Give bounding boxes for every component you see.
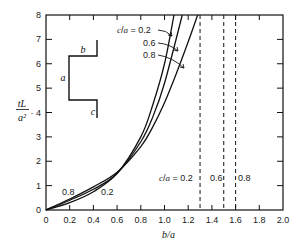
y-tick-label: 5: [36, 83, 41, 93]
y-axis-label-denominator: a²: [18, 112, 27, 123]
y-tick-label: 0: [36, 205, 41, 215]
inset-diagram: bac: [61, 40, 98, 118]
inset-label-b: b: [81, 44, 86, 55]
legend-item: 0.8: [143, 50, 156, 60]
x-tick-label: 1.4: [206, 215, 219, 225]
x-tick-label: 2.0: [277, 215, 290, 225]
x-axis-label: b/a: [162, 229, 175, 240]
low-label-0.2: 0.2: [101, 187, 114, 197]
x-tick-label: 0.4: [87, 215, 100, 225]
inset-label-a: a: [61, 72, 66, 83]
y-tick-label: 6: [36, 59, 41, 69]
y-tick-label: 8: [36, 10, 41, 20]
low-label-0.8: 0.8: [62, 187, 75, 197]
x-tick-label: 0.2: [63, 215, 76, 225]
legend-item: 0.6: [143, 38, 156, 48]
x-tick-label: 1.0: [158, 215, 171, 225]
y-tick-label: · 4: [30, 108, 41, 118]
x-tick-label: 0.8: [135, 215, 148, 225]
y-tick-label: 7: [36, 34, 41, 44]
x-tick-label: 0.6: [111, 215, 124, 225]
legend-title: c/a = 0.2: [117, 25, 151, 35]
x-tick-label: 1.8: [253, 215, 266, 225]
asymptote-title: c/a = 0.2: [159, 173, 193, 183]
x-tick-label: 0: [43, 215, 48, 225]
inset-label-c: c: [91, 106, 96, 117]
asymptote-label-0.8: 0.8: [238, 173, 251, 183]
y-tick-label: 3: [36, 132, 41, 142]
asymptote-label-0.6: 0.6: [210, 173, 223, 183]
y-axis-label-numerator: tL: [18, 98, 27, 109]
y-tick-label: 1: [36, 181, 41, 191]
chart: 00.20.40.60.81.01.21.41.61.82.001235678·…: [0, 0, 304, 250]
x-tick-label: 1.2: [182, 215, 195, 225]
x-tick-label: 1.6: [229, 215, 242, 225]
y-tick-label: 2: [36, 156, 41, 166]
